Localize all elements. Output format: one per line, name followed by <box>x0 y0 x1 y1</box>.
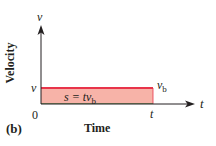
area-label-sub: b <box>91 96 96 106</box>
y-axis-symbol: v <box>37 11 42 23</box>
area-label: s = tvb <box>64 91 96 103</box>
velocity-time-diagram: v Velocity v vb s = tvb t 0 t Time (b) <box>0 0 216 146</box>
area-label-prefix: s = t <box>64 90 86 104</box>
y-tick-label: v <box>31 82 36 94</box>
x-axis-title: Time <box>84 122 110 134</box>
velocity-line-label: vb <box>157 79 167 91</box>
panel-label: (b) <box>6 122 22 135</box>
y-axis-title: Velocity <box>4 38 16 88</box>
x-axis-symbol: t <box>200 97 204 110</box>
velocity-line-label-sub: b <box>162 84 167 94</box>
origin-label: 0 <box>32 109 38 121</box>
x-tick-label: t <box>150 108 153 120</box>
displacement-area <box>41 88 153 104</box>
